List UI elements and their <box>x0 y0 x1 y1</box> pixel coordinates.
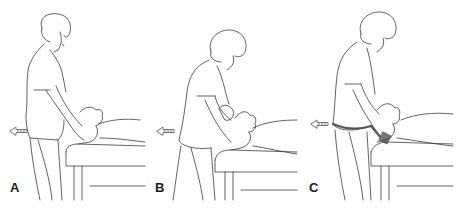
panel-c: C <box>297 0 457 213</box>
panel-label-b: B <box>155 180 164 195</box>
traction-figure: A <box>0 0 457 213</box>
panel-c-drawing <box>297 0 457 213</box>
panel-a: A <box>0 0 150 213</box>
panel-label-a: A <box>10 180 19 195</box>
panel-b-drawing <box>145 0 300 213</box>
panel-b: B <box>145 0 300 213</box>
pull-arrow-icon <box>10 127 27 135</box>
pull-arrow-icon <box>311 120 328 128</box>
pull-arrow-icon <box>157 127 174 135</box>
panel-label-c: C <box>309 180 318 195</box>
panel-a-drawing <box>0 0 150 213</box>
